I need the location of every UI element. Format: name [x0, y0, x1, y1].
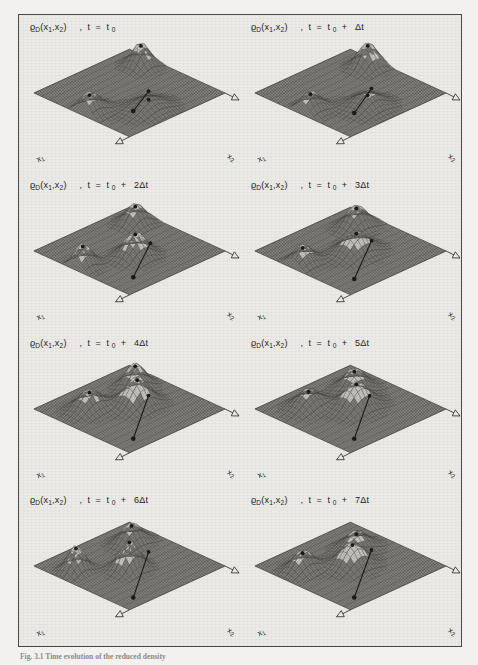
peak-marker — [308, 92, 312, 96]
surface-plot-7 — [240, 504, 461, 626]
peak-marker — [133, 364, 137, 368]
axis-label-x2-1: x2 — [446, 152, 457, 164]
time-offset-5: 5Δt — [355, 338, 369, 348]
peak-marker — [130, 524, 134, 528]
peak-marker — [74, 547, 78, 551]
axis-label-x1-0: x1 — [35, 153, 46, 165]
figure-caption: Fig. 3.1 Time evolution of the reduced d… — [20, 652, 460, 661]
plus-operator-5: + — [337, 338, 356, 348]
peak-marker — [301, 552, 305, 556]
peak-marker — [87, 93, 91, 97]
panel-title-3: ϱD(x1,x2), t = t0 + 3Δt — [251, 180, 369, 191]
x2-axis-arrow — [225, 566, 239, 573]
x1-axis-arrow — [337, 452, 351, 459]
t-subscript-0: 0 — [112, 26, 116, 33]
panel-title-0: ϱD(x1,x2), t = t0 — [30, 22, 116, 33]
surface-plot-2 — [19, 189, 240, 311]
time-offset-3: 3Δt — [355, 180, 369, 190]
trajectory-dot — [147, 550, 151, 554]
surface-plot-6 — [19, 504, 240, 626]
x1-axis-arrow — [116, 137, 130, 144]
peak-marker — [128, 541, 132, 545]
peak-marker — [354, 382, 358, 386]
surface-plot-3 — [240, 189, 461, 311]
x2-axis-arrow — [225, 93, 239, 100]
peak-marker — [87, 390, 91, 394]
plus-operator-4: + — [116, 338, 135, 348]
trajectory-dot — [352, 436, 357, 441]
density-panel-0: ϱD(x1,x2), t = t0x1x2 — [19, 15, 240, 173]
panel-grid: ϱD(x1,x2), t = t0x1x2ϱD(x1,x2), t = t0 +… — [19, 15, 461, 646]
density-arguments: (x1,x2) — [40, 495, 66, 505]
peak-marker — [301, 246, 305, 250]
trajectory-dot — [352, 277, 357, 282]
plus-operator-3: + — [337, 180, 356, 190]
density-panel-6: ϱD(x1,x2), t = t0 + 6Δtx1x2 — [19, 488, 240, 646]
axis-label-x2-4: x2 — [225, 467, 236, 479]
density-arguments: (x1,x2) — [40, 338, 66, 348]
axis-label-x2-0: x2 — [225, 152, 236, 164]
x1-axis-arrow — [116, 452, 130, 459]
peak-marker — [354, 206, 358, 210]
axis-label-x1-2: x1 — [35, 311, 46, 323]
x2-axis-arrow — [225, 408, 239, 415]
density-panel-3: ϱD(x1,x2), t = t0 + 3Δtx1x2 — [240, 173, 461, 331]
panel-title-7: ϱD(x1,x2), t = t0 + 7Δt — [251, 495, 369, 506]
axis-label-x2-2: x2 — [225, 310, 236, 322]
surface-plot-4 — [19, 347, 240, 469]
density-arguments: (x1,x2) — [261, 495, 287, 505]
panel-title-5: ϱD(x1,x2), t = t0 + 5Δt — [251, 338, 369, 349]
x1-axis-arrow — [337, 610, 351, 617]
trajectory-dot — [131, 436, 136, 441]
density-panel-4: ϱD(x1,x2), t = t0 + 4Δtx1x2 — [19, 331, 240, 489]
density-arguments: (x1,x2) — [261, 338, 287, 348]
time-expression-4: t = t — [82, 338, 111, 348]
trajectory-dot — [368, 393, 372, 397]
peak-marker — [133, 232, 137, 236]
time-offset-7: 7Δt — [355, 495, 369, 505]
density-panel-1: ϱD(x1,x2), t = t0 + Δtx1x2 — [240, 15, 461, 173]
axis-label-x2-7: x2 — [446, 625, 457, 637]
x1-axis-arrow — [116, 610, 130, 617]
x1-axis-arrow — [116, 295, 130, 302]
panel-title-4: ϱD(x1,x2), t = t0 + 4Δt — [30, 338, 148, 349]
density-panel-5: ϱD(x1,x2), t = t0 + 5Δtx1x2 — [240, 331, 461, 489]
density-panel-7: ϱD(x1,x2), t = t0 + 7Δtx1x2 — [240, 488, 461, 646]
surface-plot-5 — [240, 347, 461, 469]
axis-label-x1-7: x1 — [256, 626, 267, 638]
axis-label-x1-1: x1 — [256, 153, 267, 165]
trajectory-dot — [131, 275, 136, 280]
axis-label-x2-3: x2 — [446, 310, 457, 322]
surface-plot-0 — [19, 31, 240, 153]
trajectory-dot — [147, 89, 151, 93]
peak-marker — [366, 44, 370, 48]
axis-label-x1-3: x1 — [256, 311, 267, 323]
peak-marker — [351, 543, 355, 547]
density-arguments: (x1,x2) — [40, 180, 66, 190]
plus-operator-7: + — [337, 495, 356, 505]
time-expression-5: t = t — [303, 338, 332, 348]
figure-frame: ϱD(x1,x2), t = t0x1x2ϱD(x1,x2), t = t0 +… — [18, 14, 462, 647]
peak-marker — [366, 93, 370, 97]
trajectory-dot — [131, 596, 136, 601]
density-arguments: (x1,x2) — [261, 180, 287, 190]
time-expression-3: t = t — [303, 180, 332, 190]
x1-axis-arrow — [337, 295, 351, 302]
panel-title-6: ϱD(x1,x2), t = t0 + 6Δt — [30, 495, 148, 506]
plus-operator-2: + — [116, 180, 135, 190]
time-offset-4: 4Δt — [134, 338, 148, 348]
axis-label-x2-6: x2 — [225, 625, 236, 637]
trajectory-dot — [149, 241, 153, 245]
x2-axis-arrow — [446, 408, 460, 415]
trajectory-dot — [370, 548, 374, 552]
time-expression-0: t = t — [82, 22, 111, 32]
panel-title-2: ϱD(x1,x2), t = t0 + 2Δt — [30, 180, 148, 191]
time-offset-1: Δt — [355, 22, 364, 32]
axis-label-x2-5: x2 — [446, 467, 457, 479]
peak-marker — [139, 44, 143, 48]
peak-marker — [307, 389, 311, 393]
axis-label-x1-6: x1 — [35, 626, 46, 638]
plus-operator-1: + — [337, 22, 356, 32]
time-expression-7: t = t — [303, 495, 332, 505]
peak-marker — [354, 532, 358, 536]
